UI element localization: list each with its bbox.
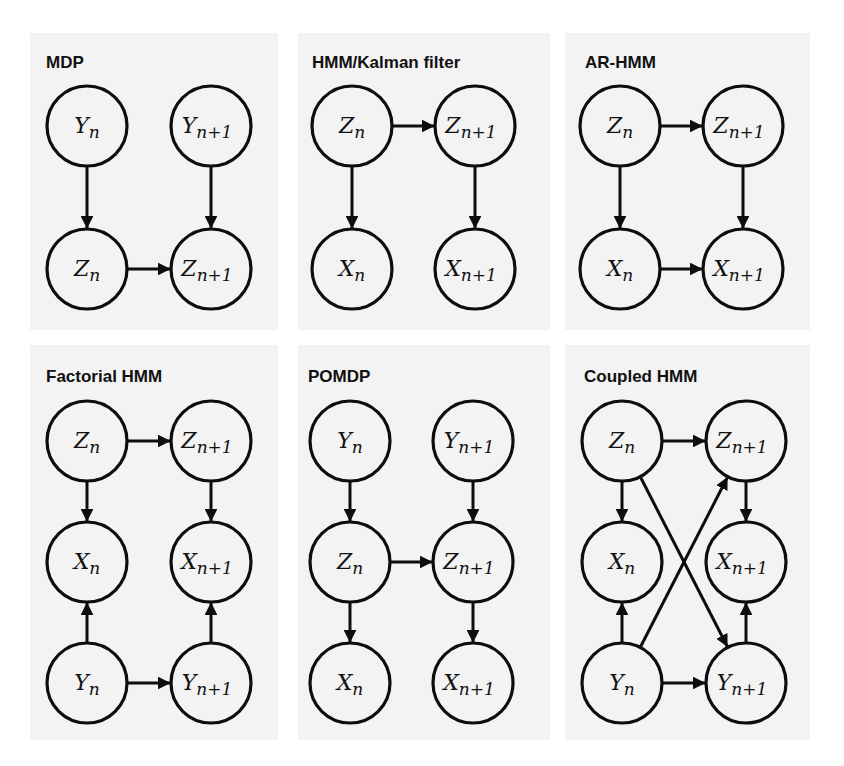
panel-title: AR-HMM [585, 53, 656, 72]
panel-background [30, 345, 278, 740]
panel-title: POMDP [308, 367, 370, 386]
panel-background [565, 345, 810, 740]
panel-title: Coupled HMM [584, 367, 697, 386]
panel-hmm-kalman: HMM/Kalman filterZnZn+1XnXn+1 [298, 33, 550, 330]
graphical-models-figure: MDPYnYn+1ZnZn+1HMM/Kalman filterZnZn+1Xn… [0, 0, 844, 766]
panel-title: HMM/Kalman filter [312, 53, 461, 72]
panels-layer: MDPYnYn+1ZnZn+1HMM/Kalman filterZnZn+1Xn… [30, 33, 810, 740]
panel-pomdp: POMDPYnYn+1ZnZn+1XnXn+1 [298, 345, 550, 740]
panel-mdp: MDPYnYn+1ZnZn+1 [30, 33, 278, 330]
panel-ar-hmm: AR-HMMZnZn+1XnXn+1 [565, 33, 810, 330]
panel-coupled-hmm: Coupled HMMZnZn+1XnXn+1YnYn+1 [565, 345, 810, 740]
panel-factorial-hmm: Factorial HMMZnZn+1XnXn+1YnYn+1 [30, 345, 278, 740]
panel-title: Factorial HMM [46, 367, 162, 386]
panel-title: MDP [46, 53, 84, 72]
panel-background [30, 33, 278, 330]
panel-background [565, 33, 810, 330]
